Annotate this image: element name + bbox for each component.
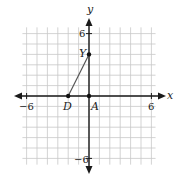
point-y (87, 52, 91, 56)
x-axis-right-arrow-icon (158, 93, 166, 100)
point-label-d: D (62, 100, 72, 113)
coordinate-plane: y x −6 6 6 −6 D Y A (0, 0, 184, 184)
x-axis-label: x (167, 89, 174, 102)
tick-label-y-neg6: −6 (74, 154, 89, 165)
tick-label-y-6: 6 (79, 28, 85, 39)
point-a (87, 94, 91, 98)
y-axis-label: y (86, 3, 94, 16)
point-label-a: A (90, 100, 99, 113)
point-d (66, 94, 70, 98)
y-axis-down-arrow-icon (86, 166, 93, 174)
tick-label-x-neg6: −6 (19, 101, 34, 112)
y-axis-up-arrow-icon (86, 18, 93, 26)
tick-label-x-6: 6 (148, 101, 154, 112)
x-axis-left-arrow-icon (14, 93, 22, 100)
